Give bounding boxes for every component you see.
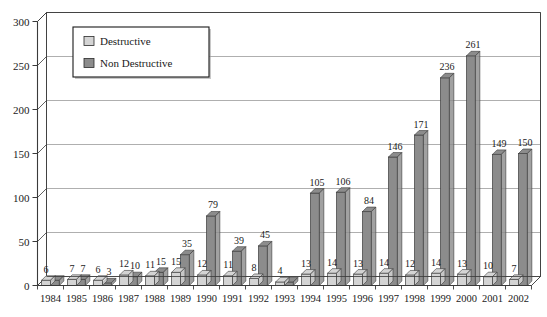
legend-item-destructive[interactable]: Destructive <box>84 35 151 47</box>
bar-destructive-1998 <box>406 270 419 285</box>
value-label-non-destructive-1987: 10 <box>130 260 140 271</box>
bar-non-destructive-2000 <box>467 51 480 285</box>
value-label-destructive-1994: 13 <box>301 258 311 269</box>
value-label-non-destructive-1991: 39 <box>234 235 244 246</box>
x-tick-label-2001: 2001 <box>482 293 503 304</box>
value-label-destructive-1986: 6 <box>96 264 101 275</box>
bar-front-face <box>328 273 337 285</box>
bar-side-face <box>449 73 454 285</box>
x-tick-label-1996: 1996 <box>352 293 373 304</box>
bar-front-face <box>484 277 493 286</box>
bar-destructive-1987 <box>120 270 133 285</box>
value-label-destructive-1988: 11 <box>145 259 155 270</box>
x-tick-label-1988: 1988 <box>144 293 165 304</box>
value-label-non-destructive-1997: 146 <box>387 141 402 152</box>
legend-swatch-icon <box>84 59 94 68</box>
bar-front-face <box>250 278 259 285</box>
bar-non-destructive-1997 <box>389 153 402 286</box>
y-tick-label: 50 <box>19 236 31 248</box>
chart-container: 050100150200250300 198419851986198719881… <box>0 0 547 317</box>
x-tick-label-1985: 1985 <box>66 293 87 304</box>
bar-destructive-1996 <box>354 270 367 286</box>
value-label-destructive-1984: 6 <box>44 264 49 275</box>
bar-front-face <box>493 154 502 285</box>
bar-side-face <box>189 250 194 285</box>
x-tick-label-1994: 1994 <box>300 293 322 304</box>
bar-non-destructive-1999 <box>441 73 454 285</box>
y-tick-label: 200 <box>13 104 30 116</box>
x-tick-label-1997: 1997 <box>378 293 399 304</box>
x-tick-label-2000: 2000 <box>456 293 477 304</box>
bar-side-face <box>397 153 402 286</box>
value-label-destructive-1991: 11 <box>223 259 233 270</box>
bar-side-face <box>267 241 272 285</box>
bar-front-face <box>441 78 450 286</box>
value-label-non-destructive-1988: 15 <box>156 256 166 267</box>
y-tick-depth-50 <box>38 233 47 242</box>
y-tick-depth-250 <box>38 57 47 66</box>
value-label-destructive-1987: 12 <box>119 258 129 269</box>
bar-front-face <box>172 272 181 285</box>
value-label-destructive-1993: 4 <box>278 265 283 276</box>
bar-front-face <box>510 279 519 285</box>
value-label-destructive-1996: 13 <box>353 258 363 269</box>
bar-front-face <box>94 280 103 285</box>
bar-front-face <box>519 154 528 286</box>
legend-swatch-icon <box>84 37 94 46</box>
x-tick-label-1998: 1998 <box>404 293 425 304</box>
y-axis <box>33 13 47 286</box>
value-label-non-destructive-1994: 105 <box>309 177 324 188</box>
bar-destructive-1994 <box>302 270 315 286</box>
value-label-destructive-1999: 14 <box>431 257 441 268</box>
grouped-bar-chart: 050100150200250300 198419851986198719881… <box>0 0 547 317</box>
bar-side-face <box>371 207 376 285</box>
bar-side-face <box>215 211 220 285</box>
x-tick-label-1993: 1993 <box>274 293 295 304</box>
value-label-non-destructive-1992: 45 <box>260 229 270 240</box>
x-tick-label-1995: 1995 <box>326 293 347 304</box>
bar-destructive-2000 <box>458 270 471 286</box>
bar-front-face <box>389 157 398 285</box>
legend-item-label: Destructive <box>100 35 151 47</box>
bar-destructive-1997 <box>380 269 393 286</box>
bar-side-face <box>423 131 428 286</box>
value-label-destructive-1998: 12 <box>405 258 415 269</box>
y-tick-depth-200 <box>38 101 47 110</box>
bar-side-face <box>241 247 246 286</box>
value-label-non-destructive-2000: 261 <box>465 39 480 50</box>
x-tick-label-2002: 2002 <box>508 293 529 304</box>
value-label-non-destructive-2002: 150 <box>517 137 532 148</box>
bar-side-face <box>475 51 480 285</box>
bar-non-destructive-1998 <box>415 131 428 286</box>
value-label-non-destructive-1989: 35 <box>182 238 192 249</box>
value-label-destructive-2001: 10 <box>483 260 493 271</box>
bar-side-face <box>319 189 324 286</box>
bar-front-face <box>354 274 363 285</box>
bar-front-face <box>380 273 389 285</box>
x-axis-tick-labels: 1984198519861987198819891990199119921993… <box>40 293 529 304</box>
value-label-destructive-2002: 7 <box>512 263 517 274</box>
bar-non-destructive-2002 <box>519 149 532 286</box>
y-tick-depth-150 <box>38 145 47 154</box>
x-tick-label-1986: 1986 <box>92 293 113 304</box>
y-tick-label: 250 <box>13 60 30 72</box>
value-label-non-destructive-1986: 3 <box>106 266 111 277</box>
value-label-destructive-1997: 14 <box>379 257 389 268</box>
y-axis-tick-labels: 050100150200250300 <box>13 16 30 292</box>
bar-front-face <box>458 274 467 285</box>
x-tick-label-1990: 1990 <box>196 293 217 304</box>
bar-front-face <box>467 56 476 286</box>
value-label-destructive-1995: 14 <box>327 257 337 268</box>
value-label-non-destructive-1995: 106 <box>335 176 350 187</box>
bar-front-face <box>415 135 424 285</box>
chart-legend: DestructiveNon Destructive <box>73 27 211 79</box>
bar-destructive-1991 <box>224 271 237 285</box>
value-label-destructive-1985: 7 <box>70 263 75 274</box>
value-label-destructive-1990: 12 <box>197 258 207 269</box>
y-tick-depth-100 <box>38 189 47 198</box>
bar-front-face <box>68 279 77 285</box>
x-tick-label-1991: 1991 <box>222 293 243 304</box>
y-tick-label: 100 <box>13 192 30 204</box>
value-label-non-destructive-1998: 171 <box>413 119 428 130</box>
bar-non-destructive-2001 <box>493 150 506 286</box>
